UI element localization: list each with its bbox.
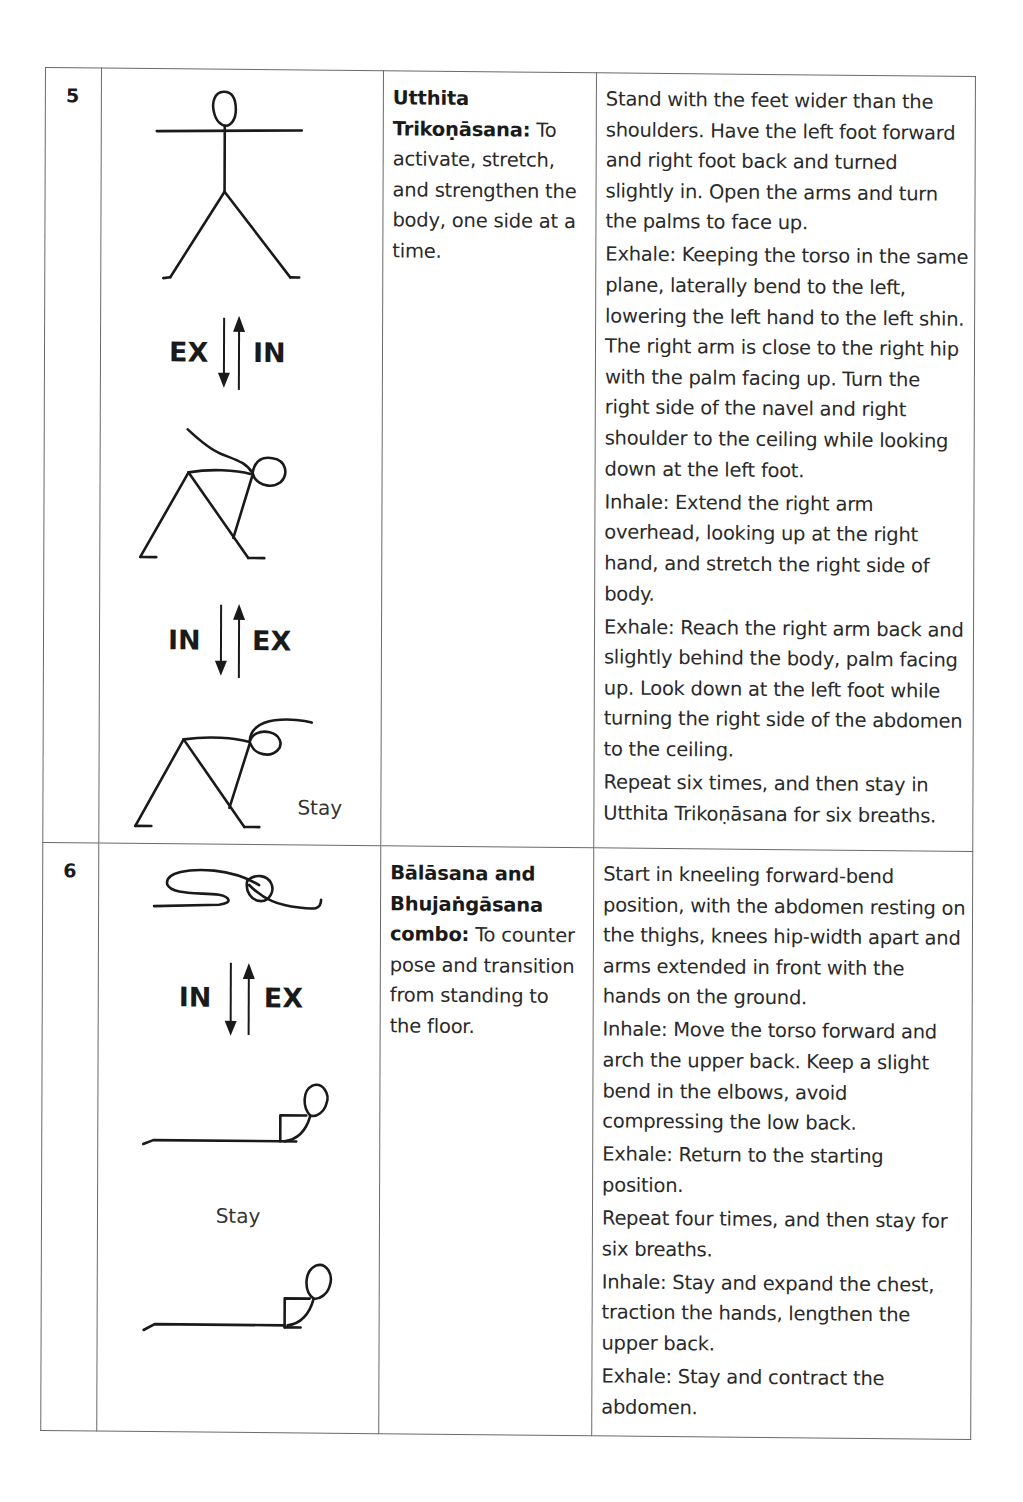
side-bend-figure-icon: [140, 429, 285, 558]
pose-table: 5: [40, 67, 975, 1440]
instruction-step: Inhale: Stay and expand the chest, tract…: [601, 1267, 964, 1362]
stay-label: Stay: [297, 795, 342, 819]
inhale-label: IN: [168, 624, 201, 655]
instruction-step: Exhale: Stay and contract the abdomen.: [601, 1361, 964, 1426]
balasana-bhujangasana-sequence-figure: IN EX: [97, 844, 381, 1433]
pose-name-cell: Bālāsana and Bhujaṅgāsana combo: To coun…: [379, 846, 594, 1436]
instruction-step: Repeat four times, and then stay for six…: [602, 1203, 965, 1268]
instruction-step: Start in kneeling forward-bend position,…: [603, 859, 967, 1015]
pose-figure-cell: IN EX: [97, 843, 381, 1433]
instruction-step: Exhale: Return to the starting position.: [602, 1140, 965, 1205]
breath-arrows-icon: EX IN: [169, 315, 286, 390]
instructions-cell: Stand with the feet wider than the shoul…: [594, 73, 976, 852]
instruction-step: Stand with the feet wider than the shoul…: [605, 84, 969, 240]
document-page: 5: [0, 0, 1023, 1502]
inhale-label: IN: [253, 337, 286, 368]
instruction-step: Repeat six times, and then stay in Utthi…: [603, 767, 966, 832]
step-number: 6: [43, 843, 98, 882]
trikonasana-sequence-figure: EX IN: [99, 69, 384, 846]
exhale-label: EX: [252, 625, 292, 656]
exhale-label: EX: [264, 982, 304, 1013]
step-number-cell: 6: [41, 843, 99, 1431]
pose-name: Utthita Trikoṇāsana:: [393, 86, 531, 141]
pose-name-cell: Utthita Trikoṇāsana: To activate, stretc…: [381, 71, 597, 848]
side-bend-arm-overhead-figure-icon: [135, 718, 311, 828]
instruction-step: Inhale: Extend the right arm overhead, l…: [604, 487, 967, 613]
step-number-cell: 5: [43, 68, 102, 844]
standing-figure-icon: [156, 91, 302, 279]
table-row: 6 IN: [41, 843, 973, 1440]
cobra-figure-icon: [143, 1083, 327, 1146]
child-pose-figure-icon: [154, 870, 321, 909]
stay-label: Stay: [216, 1204, 261, 1228]
pose-figure-cell: EX IN: [99, 68, 384, 846]
instructions-cell: Start in kneeling forward-bend position,…: [592, 848, 973, 1439]
instruction-step: Exhale: Keeping the torso in the same pl…: [605, 240, 969, 488]
breath-arrows-icon: IN EX: [179, 962, 304, 1036]
instruction-step: Inhale: Move the torso forward and arch …: [602, 1015, 965, 1141]
step-number: 5: [46, 68, 101, 107]
exhale-label: EX: [169, 336, 209, 367]
table-row: 5: [43, 68, 976, 852]
cobra-figure-icon: [144, 1263, 331, 1332]
instruction-step: Exhale: Reach the right arm back and sli…: [604, 612, 968, 768]
breath-arrows-icon: IN EX: [168, 603, 292, 678]
inhale-label: IN: [179, 981, 212, 1012]
